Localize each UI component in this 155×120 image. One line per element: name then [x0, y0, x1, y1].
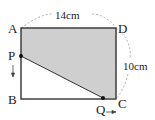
vertex-label-a: A — [8, 21, 18, 36]
arrow-down-icon — [12, 65, 15, 77]
vertex-label-c: C — [118, 96, 127, 111]
dimension-label-dc: 10cm — [123, 60, 148, 72]
vertex-label-b: B — [8, 92, 17, 107]
vertex-label-d: D — [118, 21, 127, 36]
point-p-dot — [19, 54, 23, 58]
geometry-diagram: A D B C P Q 14cm 10cm — [0, 0, 155, 120]
arrow-right-icon — [106, 111, 116, 114]
point-q-dot — [101, 96, 105, 100]
point-label-p: P — [8, 48, 15, 63]
dimension-label-ad: 14cm — [55, 9, 80, 21]
point-label-q: Q — [96, 102, 106, 117]
